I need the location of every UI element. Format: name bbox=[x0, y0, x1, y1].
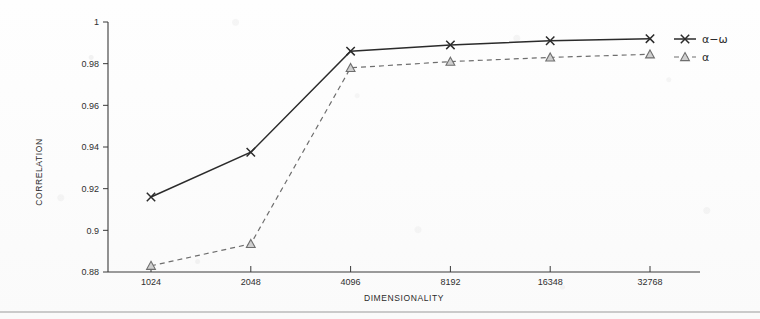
series-2 bbox=[147, 50, 655, 269]
legend-label: α−ω bbox=[702, 33, 728, 46]
data-point-marker bbox=[147, 193, 155, 201]
y-tick-label: 0.96 bbox=[81, 101, 99, 111]
chart-svg: CORRELATION 0.880.90.920.940.960.981 102… bbox=[0, 0, 760, 319]
legend-label: α bbox=[702, 51, 709, 64]
correlation-vs-dimensionality-chart: CORRELATION 0.880.90.920.940.960.981 102… bbox=[0, 0, 760, 319]
data-point-marker bbox=[246, 239, 255, 247]
y-tick-label: 0.94 bbox=[81, 142, 99, 152]
legend-item: α bbox=[674, 51, 709, 64]
legend-marker bbox=[681, 53, 690, 61]
y-axis-ticks: 0.880.90.920.940.960.981 bbox=[81, 17, 108, 277]
x-tick-label: 2048 bbox=[241, 277, 261, 287]
series-line bbox=[151, 39, 650, 197]
data-point-marker bbox=[247, 148, 255, 156]
x-axis-ticks: 10242048409681921634832768 bbox=[141, 266, 663, 287]
series-layer bbox=[147, 34, 655, 269]
series-1 bbox=[147, 34, 654, 201]
y-tick-label: 0.9 bbox=[86, 226, 99, 236]
x-tick-label: 8192 bbox=[440, 277, 460, 287]
y-tick-label: 1 bbox=[94, 17, 99, 27]
y-axis-title: CORRELATION bbox=[34, 138, 44, 205]
x-tick-label: 4096 bbox=[341, 277, 361, 287]
x-axis-title: DIMENSIONALITY bbox=[364, 293, 444, 303]
x-tick-label: 32768 bbox=[637, 277, 662, 287]
chart-legend: α−ωα bbox=[674, 33, 728, 64]
y-tick-label: 0.88 bbox=[81, 267, 99, 277]
legend-item: α−ω bbox=[674, 33, 728, 46]
x-tick-label: 16348 bbox=[538, 277, 563, 287]
x-tick-label: 1024 bbox=[141, 277, 161, 287]
data-point-marker bbox=[646, 50, 655, 58]
y-tick-label: 0.98 bbox=[81, 59, 99, 69]
y-tick-label: 0.92 bbox=[81, 184, 99, 194]
series-line bbox=[151, 54, 650, 265]
